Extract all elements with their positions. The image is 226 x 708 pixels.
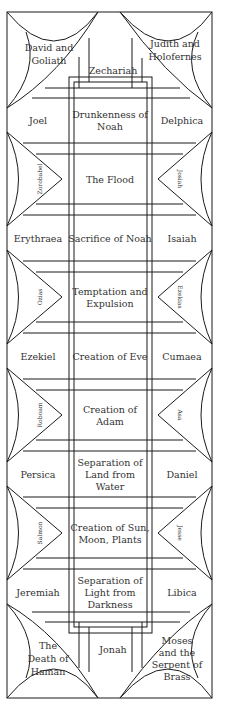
- lunette-roboam: Roboam: [36, 402, 43, 427]
- lunette-salmon: Salmon: [36, 521, 43, 544]
- label-line: Erythraea: [14, 233, 63, 244]
- lunette-left-triangle: [7, 250, 62, 344]
- seer-erythraea: Erythraea: [14, 233, 63, 244]
- label-line: Temptation and: [72, 286, 147, 297]
- panel-7: Creation of Sun,Moon, Plants: [71, 522, 150, 545]
- label-line: Water: [96, 481, 125, 492]
- labels: ZechariahJonahDavid andGoliathJudith and…: [14, 38, 204, 682]
- label-line: Isaiah: [167, 233, 196, 244]
- lunette-right-triangle: [158, 132, 212, 226]
- label-line: Creation of: [83, 404, 139, 415]
- seer-cumaea: Cumaea: [162, 351, 202, 362]
- label-line: Daniel: [166, 469, 197, 480]
- label-line: Darkness: [87, 599, 132, 610]
- lunette-right-triangle: [158, 486, 212, 580]
- lunette-left-arc: [7, 368, 19, 462]
- lunette-right-arc: [201, 368, 212, 462]
- label-line: Noah: [97, 121, 123, 132]
- label-line: Delphica: [161, 115, 204, 126]
- pendentive-bottom-left-inner: [7, 604, 30, 678]
- panel-3: Temptation andExpulsion: [72, 286, 147, 309]
- seer-ezekiel: Ezekiel: [20, 351, 55, 362]
- lunette-asa: Asa: [177, 409, 184, 421]
- lunette-left-arc: [7, 132, 19, 226]
- lunette-right-triangle: [158, 368, 212, 462]
- panel-0: Drunkenness ofNoah: [72, 109, 149, 132]
- lunette-left-triangle: [7, 486, 62, 580]
- panel-8: Separation ofLight fromDarkness: [77, 575, 144, 610]
- label-line: Haman: [31, 666, 66, 677]
- label-line: The Flood: [86, 174, 134, 185]
- seer-persica: Persica: [20, 469, 55, 480]
- label-line: Cumaea: [162, 351, 202, 362]
- lunette-right-arc: [201, 250, 212, 344]
- pendentive-judith-holofernes: Judith andHolofernes: [148, 38, 201, 62]
- label-line: Sacrifice of Noah: [68, 233, 151, 244]
- prophet-jonah: Jonah: [98, 644, 126, 655]
- label-line: Judith and: [149, 38, 200, 49]
- label-line: Persica: [20, 469, 55, 480]
- label-line: Moon, Plants: [78, 534, 141, 545]
- panel-2: Sacrifice of Noah: [68, 233, 151, 244]
- lunette-right-arc: [201, 132, 212, 226]
- label-line: Jonah: [98, 644, 126, 655]
- label-line: Separation of: [77, 575, 144, 586]
- seer-delphica: Delphica: [161, 115, 204, 126]
- label-line: Brass: [164, 671, 191, 682]
- panel-5: Creation ofAdam: [83, 404, 139, 427]
- prophet-zechariah: Zechariah: [89, 65, 138, 76]
- label-line: Creation of Sun,: [71, 522, 150, 533]
- lunette-ezekias: Ezekias: [177, 285, 184, 308]
- pendentive-top-left-arc: [7, 12, 98, 41]
- label-line: Land from: [85, 469, 135, 480]
- label-line: Adam: [95, 416, 124, 427]
- label-line: Joel: [28, 115, 47, 126]
- label-line: The: [39, 640, 57, 651]
- pendentive-david-goliath: David andGoliath: [25, 42, 74, 66]
- lunette-jesse: Jesse: [176, 524, 184, 541]
- label-line: Separation of: [77, 457, 144, 468]
- label-line: Expulsion: [86, 298, 133, 309]
- lunette-josiah: Josiah: [176, 169, 184, 189]
- label-line: Goliath: [32, 55, 67, 66]
- pendentive-top-right-arc: [120, 12, 212, 41]
- label-line: Serpent of: [152, 659, 204, 670]
- lunette-left-triangle: [7, 368, 62, 462]
- label-line: Light from: [84, 587, 135, 598]
- lunette-ozias: Ozias: [36, 289, 43, 306]
- lunette-right-arc: [201, 486, 212, 580]
- label-line: Ezekiel: [20, 351, 55, 362]
- seer-jeremiah: Jeremiah: [15, 587, 59, 598]
- ceiling-diagram: ZechariahJonahDavid andGoliathJudith and…: [0, 0, 226, 708]
- label-line: Creation of Eve: [73, 351, 148, 362]
- seer-isaiah: Isaiah: [167, 233, 196, 244]
- lunette-right-triangle: [158, 250, 212, 344]
- label-line: Drunkenness of: [72, 109, 149, 120]
- lunette-left-arc: [7, 486, 19, 580]
- label-line: and the: [159, 647, 196, 658]
- seer-daniel: Daniel: [166, 469, 197, 480]
- label-line: David and: [25, 42, 74, 53]
- seer-libica: Libica: [167, 587, 197, 598]
- panel-4: Creation of Eve: [73, 351, 148, 362]
- panel-6: Separation ofLand fromWater: [77, 457, 144, 492]
- label-line: Zechariah: [89, 65, 138, 76]
- label-line: Libica: [167, 587, 197, 598]
- pendentive-death-of-haman: TheDeath ofHaman: [27, 640, 70, 677]
- lunette-zorobabel: Zorobabel: [36, 163, 43, 194]
- lunette-left-triangle: [7, 132, 62, 226]
- label-line: Jeremiah: [15, 587, 59, 598]
- label-line: Moses: [162, 635, 193, 646]
- lunette-left-arc: [7, 250, 19, 344]
- panel-1: The Flood: [86, 174, 134, 185]
- label-line: Holofernes: [148, 51, 201, 62]
- label-line: Death of: [27, 653, 70, 664]
- seer-joel: Joel: [28, 115, 47, 126]
